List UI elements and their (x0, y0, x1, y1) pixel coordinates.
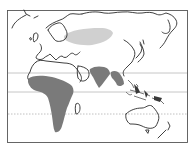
coastline-tasmania (146, 130, 149, 133)
coastline-australia (126, 105, 159, 128)
range-central-asia (64, 28, 113, 45)
map-canvas (0, 0, 192, 147)
coastline-madagascar (75, 103, 80, 114)
island-sulawesi (144, 90, 148, 98)
range-india (90, 66, 110, 88)
range-africa (28, 76, 74, 133)
coastline-british-isles (30, 33, 38, 42)
coastline-kamchatka (162, 20, 170, 34)
coastline-europe-south (36, 44, 80, 60)
coastline-arabia (77, 66, 89, 81)
distribution-map (0, 0, 192, 147)
coastline-new-zealand (158, 122, 170, 138)
